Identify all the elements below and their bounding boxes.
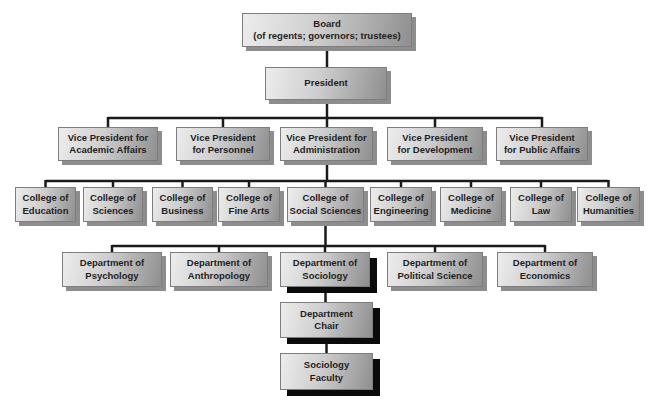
node-college-business: College of Business bbox=[152, 187, 213, 222]
node-vp-public-affairs: Vice President for Public Affairs bbox=[496, 127, 588, 161]
node-president: President bbox=[265, 67, 387, 100]
node-sociology-faculty: Sociology Faculty bbox=[280, 353, 373, 390]
node-college-fine-arts: College of Fine Arts bbox=[218, 187, 280, 222]
node-vp-development: Vice President for Development bbox=[387, 127, 483, 161]
node-college-law: College of Law bbox=[510, 187, 572, 222]
node-department-chair: Department Chair bbox=[280, 302, 373, 338]
node-dept-economics: Department of Economics bbox=[497, 252, 593, 287]
node-college-sciences: College of Sciences bbox=[83, 187, 143, 222]
node-vp-academic-affairs: Vice President for Academic Affairs bbox=[58, 127, 158, 161]
node-college-education: College of Education bbox=[15, 187, 76, 222]
node-college-humanities: College of Humanities bbox=[577, 187, 640, 222]
node-college-engineering: College of Engineering bbox=[370, 187, 432, 222]
node-college-medicine: College of Medicine bbox=[440, 187, 502, 222]
node-board: Board (of regents; governors; trustees) bbox=[242, 13, 412, 47]
node-dept-political-science: Department of Political Science bbox=[387, 252, 483, 287]
node-vp-personnel: Vice President for Personnel bbox=[176, 127, 270, 161]
node-college-social-sciences: College of Social Sciences bbox=[287, 187, 364, 222]
node-vp-administration: Vice President for Administration bbox=[280, 127, 373, 161]
node-dept-psychology: Department of Psychology bbox=[62, 252, 162, 287]
node-dept-anthropology: Department of Anthropology bbox=[170, 252, 268, 287]
org-chart: Board (of regents; governors; trustees) … bbox=[0, 0, 650, 402]
node-dept-sociology: Department of Sociology bbox=[280, 252, 370, 287]
